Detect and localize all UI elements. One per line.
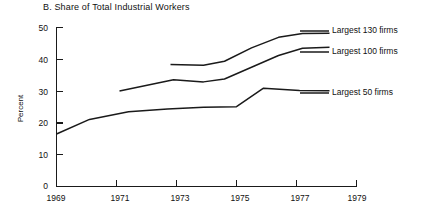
chart-figure: B. Share of Total Industrial Workers Per… bbox=[0, 0, 422, 219]
series-line-largest-50-firms bbox=[57, 88, 330, 134]
legend-rules bbox=[300, 31, 329, 93]
series-line-largest-100-firms bbox=[120, 47, 330, 91]
chart-plot-area bbox=[0, 0, 422, 219]
data-series bbox=[57, 33, 330, 134]
series-line-largest-130-firms bbox=[171, 33, 330, 65]
